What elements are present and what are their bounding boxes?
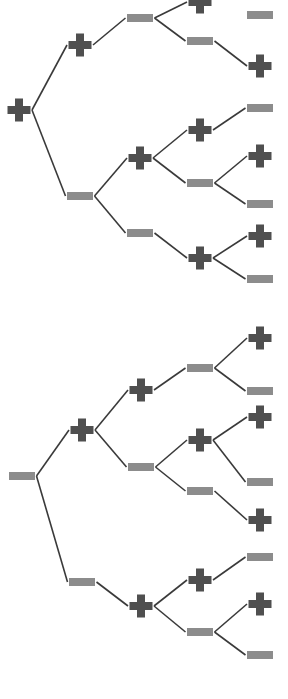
tree-edge xyxy=(95,390,128,430)
minus-glyph xyxy=(187,628,213,636)
plus-node-icon xyxy=(249,327,272,350)
plus-node-icon xyxy=(249,145,272,168)
minus-node-icon xyxy=(187,37,213,45)
minus-node-icon xyxy=(247,478,273,486)
tree-edge xyxy=(215,338,248,368)
minus-glyph xyxy=(247,200,273,208)
minus-node-icon xyxy=(247,651,273,659)
tree-edge xyxy=(213,258,246,279)
plus-node-icon xyxy=(8,99,31,122)
minus-node-icon xyxy=(247,275,273,283)
minus-node-icon xyxy=(247,11,273,19)
minus-node-icon xyxy=(67,192,93,200)
tree-edge xyxy=(215,41,248,66)
tree-edge xyxy=(32,45,67,110)
tree-edge xyxy=(37,430,70,476)
plus-node-icon xyxy=(189,569,212,592)
plus-node-icon xyxy=(249,406,272,429)
plus-glyph xyxy=(249,327,272,350)
minus-node-icon xyxy=(9,472,35,480)
plus-node-icon xyxy=(69,34,92,57)
minus-node-icon xyxy=(128,463,154,471)
plus-glyph xyxy=(249,509,272,532)
minus-node-icon xyxy=(187,487,213,495)
minus-node-icon xyxy=(187,179,213,187)
plus-node-icon xyxy=(189,247,212,270)
minus-glyph xyxy=(127,14,153,22)
tree-edge xyxy=(215,156,248,183)
minus-node-icon xyxy=(187,364,213,372)
tree-edge xyxy=(156,467,186,491)
minus-glyph xyxy=(247,104,273,112)
minus-glyph xyxy=(247,11,273,19)
minus-node-icon xyxy=(127,14,153,22)
plus-glyph xyxy=(189,429,212,452)
minus-glyph xyxy=(247,387,273,395)
minus-glyph xyxy=(128,463,154,471)
minus-node-icon xyxy=(187,628,213,636)
tree-edge xyxy=(215,632,246,655)
plus-node-icon xyxy=(249,593,272,616)
tree-edge xyxy=(153,158,186,183)
tree-edge xyxy=(154,368,186,390)
minus-node-icon xyxy=(247,387,273,395)
plus-glyph xyxy=(71,419,94,442)
plus-glyph xyxy=(8,99,31,122)
minus-node-icon xyxy=(127,229,153,237)
minus-glyph xyxy=(247,651,273,659)
plus-node-icon xyxy=(130,595,153,618)
tree-edge xyxy=(95,196,126,233)
plus-glyph xyxy=(130,379,153,402)
plus-glyph xyxy=(69,34,92,57)
tree-edge xyxy=(32,110,66,196)
minus-glyph xyxy=(187,487,213,495)
minus-node-icon xyxy=(69,578,95,586)
tree-edge xyxy=(215,368,246,391)
tree-edge xyxy=(213,236,247,258)
minus-glyph xyxy=(247,478,273,486)
tree-edge xyxy=(213,440,246,482)
plus-glyph xyxy=(249,55,272,78)
tree-edge xyxy=(154,580,187,606)
tree-edge xyxy=(95,430,127,467)
plus-glyph xyxy=(249,593,272,616)
plus-node-icon xyxy=(129,147,152,170)
tree-edge xyxy=(155,233,188,258)
tree-edge xyxy=(97,582,129,606)
tree-edge xyxy=(156,440,188,467)
plus-node-icon xyxy=(249,225,272,248)
tree-edge xyxy=(215,183,246,204)
tree-edge xyxy=(93,18,126,45)
plus-glyph xyxy=(249,225,272,248)
minus-node-icon xyxy=(247,104,273,112)
plus-node-icon xyxy=(189,0,212,14)
plus-node-icon xyxy=(130,379,153,402)
plus-glyph xyxy=(189,569,212,592)
tree-edge xyxy=(95,158,128,196)
plus-glyph xyxy=(129,147,152,170)
plus-glyph xyxy=(249,145,272,168)
plus-node-icon xyxy=(189,429,212,452)
tree-edge xyxy=(215,604,248,632)
tree-nodes-layer xyxy=(8,0,274,659)
minus-glyph xyxy=(187,364,213,372)
tree-edge xyxy=(153,130,187,158)
plus-node-icon xyxy=(189,119,212,142)
tree-edge xyxy=(155,2,188,18)
tree-edge xyxy=(213,417,247,440)
minus-glyph xyxy=(67,192,93,200)
minus-node-icon xyxy=(247,553,273,561)
minus-glyph xyxy=(187,37,213,45)
tree-edge xyxy=(154,606,186,632)
minus-glyph xyxy=(187,179,213,187)
plus-glyph xyxy=(249,406,272,429)
minus-glyph xyxy=(247,553,273,561)
plus-glyph xyxy=(189,119,212,142)
tree-edge xyxy=(213,108,246,130)
plus-glyph xyxy=(130,595,153,618)
plus-node-icon xyxy=(249,509,272,532)
tree-edge xyxy=(215,491,248,520)
minus-glyph xyxy=(247,275,273,283)
minus-glyph xyxy=(69,578,95,586)
plus-node-icon xyxy=(249,55,272,78)
